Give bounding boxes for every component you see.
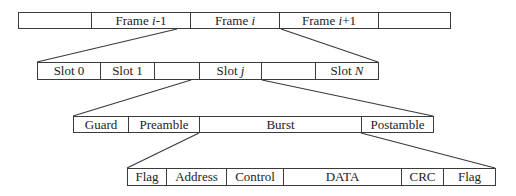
cell-label: CRC [409,169,435,185]
frames-cell-empty [378,12,451,29]
cell-label: Slot N [331,63,364,79]
zoom-connector-lines [0,0,516,196]
frames-cell-frame-i-1: Frame i-1 [91,12,191,29]
cell-label: Frame i-1 [116,13,167,29]
cell-label: Slot 0 [54,63,85,79]
cell-label: Preamble [139,117,188,133]
connector-line [37,29,177,62]
cell-label: Slot 1 [112,63,143,79]
cell-label: Control [235,169,275,185]
frames-cell-frame-i: Frame i [190,12,280,29]
slots-cell-empty [154,62,200,80]
slot-structure-cell-postamble: Postamble [361,116,434,133]
slots-cell-empty [261,62,316,80]
frames-cell-frame-i-1: Frame i+1 [279,12,379,29]
cell-label: Burst [266,117,294,133]
slot-structure-cell-guard: Guard [73,116,129,133]
cell-label: Guard [85,117,118,133]
cell-label: Frame i+1 [302,13,356,29]
cell-label: DATA [326,169,360,185]
slots-cell-slot-0: Slot 0 [37,62,101,80]
burst-structure-cell-flag: Flag [443,168,496,186]
burst-structure-cell-control: Control [226,168,284,186]
cell-label: Flag [458,169,481,185]
slots-cell-slot-n: Slot N [315,62,379,80]
frames-cell-empty [18,12,92,29]
burst-structure-cell-address: Address [166,168,227,186]
burst-structure-cell-data: DATA [283,168,402,186]
cell-label: Slot j [217,63,245,79]
cell-label: Address [175,169,218,185]
cell-label: Frame i [215,13,255,29]
slots-cell-slot-1: Slot 1 [100,62,155,80]
connector-line [361,133,495,168]
burst-structure-cell-flag: Flag [127,168,167,186]
cell-label: Postamble [370,117,424,133]
connector-line [127,133,199,168]
cell-label: Flag [135,169,158,185]
burst-structure-cell-crc: CRC [401,168,444,186]
connector-line [262,80,433,116]
slot-structure-cell-preamble: Preamble [128,116,200,133]
slot-structure-cell-burst: Burst [199,116,362,133]
slots-cell-slot-j: Slot j [199,62,262,80]
connector-line [73,80,191,116]
connector-line [281,29,378,62]
